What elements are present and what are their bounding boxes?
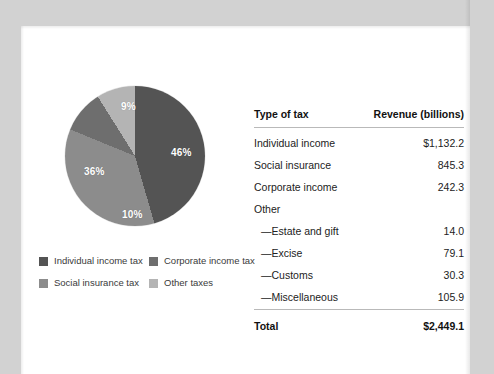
pie-slice-label-social-insurance: 36% [84, 167, 105, 177]
table-row: Social insurance 845.3 [254, 149, 464, 171]
legend-swatch-corporate-income-tax [149, 257, 158, 266]
table-header-type-of-tax: Type of tax [254, 108, 356, 128]
pie-legend: Individual income tax Corporate income t… [39, 250, 259, 294]
table-cell-value: 242.3 [356, 171, 464, 193]
legend-label-other-taxes: Other taxes [164, 278, 213, 288]
table-cell-label: Other [254, 193, 356, 215]
table-cell-value: $1,132.2 [356, 128, 464, 150]
table-total-row: Total $2,449.1 [254, 310, 464, 333]
scanned-page-background: 46% 36% 10% 9% Individual income tax Cor… [0, 0, 494, 374]
legend-swatch-other-taxes [149, 279, 158, 288]
pie-slice-label-corporate-income: 10% [122, 210, 143, 220]
table-row: —Customs 30.3 [254, 259, 464, 281]
table-cell-label: —Miscellaneous [254, 281, 356, 303]
table-cell-label: Corporate income [254, 171, 356, 193]
table-cell-label: —Estate and gift [254, 215, 356, 237]
legend-item-corporate-income-tax: Corporate income tax [149, 256, 259, 266]
table-cell-value: 79.1 [356, 237, 464, 259]
legend-label-social-insurance-tax: Social insurance tax [54, 278, 139, 288]
table-cell-value: 30.3 [356, 259, 464, 281]
pie-chart: 46% 36% 10% 9% [65, 86, 205, 226]
table-cell-label: Social insurance [254, 149, 356, 171]
legend-item-other-taxes: Other taxes [149, 278, 259, 288]
legend-item-individual-income-tax: Individual income tax [39, 256, 149, 266]
legend-label-individual-income-tax: Individual income tax [54, 256, 143, 266]
table-cell-value: 14.0 [356, 215, 464, 237]
table-cell-label: —Excise [254, 237, 356, 259]
table-total-value: $2,449.1 [356, 310, 464, 333]
legend-label-corporate-income-tax: Corporate income tax [164, 256, 255, 266]
table-row: —Miscellaneous 105.9 [254, 281, 464, 303]
table-body: Individual income $1,132.2 Social insura… [254, 128, 464, 333]
table-cell-value: 105.9 [356, 281, 464, 303]
table-header-row: Type of tax Revenue (billions) [254, 108, 464, 128]
pie-slice-label-individual-income: 46% [171, 148, 192, 158]
table-cell-value [356, 193, 464, 215]
table-row: Individual income $1,132.2 [254, 128, 464, 150]
table-cell-value: 845.3 [356, 149, 464, 171]
table-row: —Excise 79.1 [254, 237, 464, 259]
table-row: —Estate and gift 14.0 [254, 215, 464, 237]
pie-slice-label-other-taxes: 9% [121, 102, 136, 112]
legend-swatch-social-insurance-tax [39, 279, 48, 288]
table-row-group-other: Other [254, 193, 464, 215]
table-row: Corporate income 242.3 [254, 171, 464, 193]
pie-chart-figure: 46% 36% 10% 9% Individual income tax Cor… [21, 86, 259, 294]
revenue-table: Type of tax Revenue (billions) Individua… [254, 108, 464, 332]
legend-swatch-individual-income-tax [39, 257, 48, 266]
table-cell-label: Individual income [254, 128, 356, 150]
table-total-label: Total [254, 310, 356, 333]
table-header-revenue: Revenue (billions) [356, 108, 464, 128]
legend-item-social-insurance-tax: Social insurance tax [39, 278, 149, 288]
table-cell-label: —Customs [254, 259, 356, 281]
printed-page: 46% 36% 10% 9% Individual income tax Cor… [21, 26, 470, 374]
